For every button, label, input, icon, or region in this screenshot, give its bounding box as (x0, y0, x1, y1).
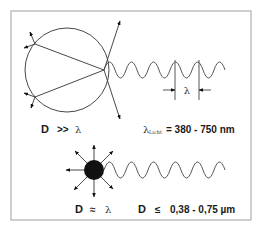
light-wavelength-range: = 380 - 750 nm (166, 124, 235, 135)
light-wave-small (104, 162, 225, 178)
large-particle-group: λ (24, 21, 225, 119)
relation-op-approx: ≈ (90, 204, 96, 215)
scatter-arrow-icon (30, 32, 35, 44)
light-scattering-diagram: λ D >> λ λ Licht = 380 - 750 nm D ≈ λ D … (0, 0, 259, 235)
relation-lambda-small: λ (105, 204, 112, 215)
scatter-arrow-icon (31, 97, 35, 108)
light-lambda-subscript: Licht (149, 129, 162, 135)
reflected-ray-down-arrow-icon (104, 70, 120, 119)
relation-d-small: D (75, 203, 83, 215)
size-range: 0,38 - 0,75 µm (170, 204, 235, 215)
large-particle-circle (25, 28, 109, 112)
scatter-arrow-icon (24, 44, 35, 48)
wavelength-label: λ (184, 85, 191, 96)
relation-lambda-large: λ (75, 124, 82, 135)
light-wave-large (104, 62, 225, 78)
figure-frame (11, 11, 251, 220)
size-d: D (138, 203, 146, 215)
small-particle-group (66, 145, 225, 197)
relation-op-much-greater: >> (57, 124, 69, 135)
size-op-leq: ≤ (155, 204, 161, 215)
internal-ray-lower (35, 70, 104, 97)
reflected-ray-up-arrow-icon (104, 21, 120, 70)
small-particle-dot (84, 160, 104, 180)
relation-d-large: D (41, 123, 49, 135)
internal-ray-upper (35, 44, 104, 70)
